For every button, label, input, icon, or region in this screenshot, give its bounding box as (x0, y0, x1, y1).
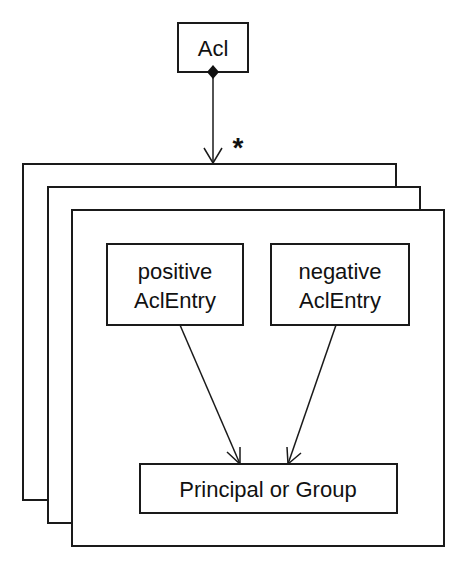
negative-acl-entry-box[interactable]: negative AclEntry (271, 244, 409, 325)
diagram-canvas: Acl * positive AclEntry negative AclEntr… (0, 0, 469, 561)
positive-acl-entry-box[interactable]: positive AclEntry (107, 244, 243, 325)
positive-label-line2: AclEntry (134, 288, 216, 313)
principal-or-group-box[interactable]: Principal or Group (140, 464, 397, 513)
negative-label-line2: AclEntry (299, 288, 381, 313)
acl-class-box[interactable]: Acl (178, 23, 248, 72)
negative-label-line1: negative (298, 259, 381, 284)
positive-label-line1: positive (138, 259, 213, 284)
acl-label: Acl (198, 36, 229, 61)
principal-label: Principal or Group (179, 477, 356, 502)
multiplicity-label: * (233, 132, 244, 163)
